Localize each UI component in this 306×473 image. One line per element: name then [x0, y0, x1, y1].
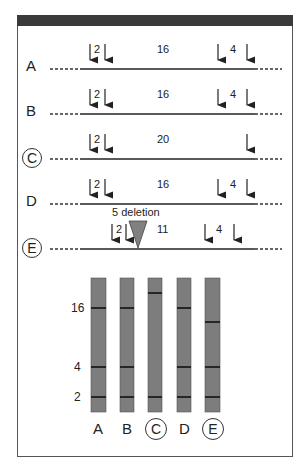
fragment-d-middle: 16 — [157, 179, 169, 190]
fragment-b-left: 2 — [94, 89, 100, 100]
fragment-b-middle: 16 — [157, 89, 169, 100]
fragment-e-right: 4 — [216, 224, 222, 235]
row-label-b: B — [26, 103, 36, 118]
deletion-triangle — [129, 221, 147, 248]
fragment-e-left: 2 — [116, 224, 122, 235]
gel — [91, 278, 220, 412]
row-label-c: C — [22, 148, 42, 168]
size-marker-4: 4 — [74, 361, 81, 373]
fragment-a-middle: 16 — [157, 44, 169, 55]
lane-label-d: D — [179, 421, 190, 436]
fragment-a-right: 4 — [230, 44, 236, 55]
deletion-annotation: 5 deletion — [112, 207, 160, 218]
row-label-d: D — [26, 193, 37, 208]
size-marker-16: 16 — [71, 302, 84, 314]
lane-label-e: E — [202, 418, 224, 440]
size-marker-2: 2 — [74, 391, 81, 403]
lane-label-c: C — [145, 418, 167, 440]
lane-label-b: B — [122, 421, 132, 436]
fragment-c-left: 2 — [94, 134, 100, 145]
fragment-b-right: 4 — [230, 89, 236, 100]
fragment-a-left: 2 — [94, 44, 100, 55]
lane-label-a: A — [93, 421, 103, 436]
fragment-e-middle: 11 — [157, 224, 168, 235]
fragment-c-middle: 20 — [157, 134, 169, 145]
fragment-d-right: 4 — [230, 179, 236, 190]
row-label-a: A — [26, 58, 36, 73]
row-label-e: E — [22, 238, 42, 258]
restriction-map-graphic — [0, 0, 306, 473]
fragment-d-left: 2 — [94, 179, 100, 190]
